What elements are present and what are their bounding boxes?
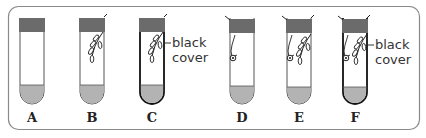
stopper-icon bbox=[342, 19, 368, 33]
experiment-diagram: black cover black cover A B C D E bbox=[0, 0, 426, 138]
stopper-icon bbox=[79, 18, 105, 32]
black-cover-label-f-line1: black bbox=[375, 37, 410, 52]
stopper-icon bbox=[19, 18, 45, 32]
stopper-icon bbox=[286, 19, 312, 33]
tube-a bbox=[19, 18, 45, 104]
black-cover-label-c-line1: black bbox=[172, 35, 207, 50]
tube-label-a: A bbox=[26, 110, 38, 125]
tube-e bbox=[282, 15, 314, 104]
tube-c bbox=[139, 14, 171, 104]
stopper-icon bbox=[139, 18, 165, 32]
tube-label-e: E bbox=[294, 110, 304, 125]
stopper-icon bbox=[229, 19, 255, 33]
black-cover-label-f-line2: cover bbox=[375, 52, 412, 67]
tube-b bbox=[79, 14, 107, 104]
tube-d bbox=[225, 16, 255, 104]
tube-f bbox=[338, 15, 374, 104]
black-cover-label-c-line2: cover bbox=[172, 50, 209, 65]
tube-label-c: C bbox=[147, 110, 157, 125]
tube-label-d: D bbox=[236, 110, 247, 125]
tube-label-b: B bbox=[87, 110, 98, 125]
tube-label-f: F bbox=[350, 110, 360, 125]
